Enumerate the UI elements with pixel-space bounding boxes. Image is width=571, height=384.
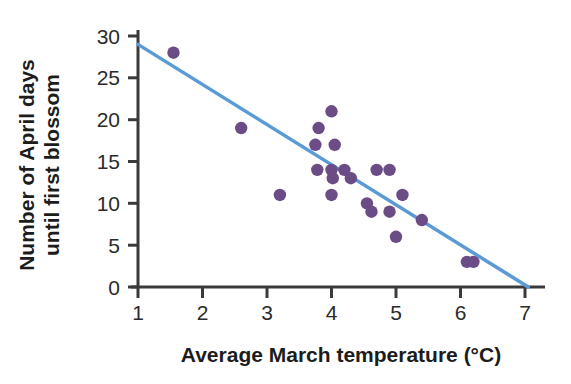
scatter-point bbox=[309, 139, 321, 151]
y-tick-label-5: 5 bbox=[108, 234, 120, 257]
y-tick-label-10: 10 bbox=[97, 192, 120, 215]
scatter-point bbox=[383, 164, 395, 176]
scatter-point bbox=[416, 214, 428, 226]
x-tick-label-1: 1 bbox=[132, 301, 144, 324]
x-axis-title: Average March temperature (°C) bbox=[181, 343, 501, 366]
scatter-chart: 30 25 20 15 10 5 0 1 2 3 4 5 6 7 Average… bbox=[0, 0, 571, 384]
y-tick-label-20: 20 bbox=[97, 108, 120, 131]
y-axis-title-line-1: Number of April days bbox=[15, 59, 38, 271]
scatter-point-group bbox=[167, 47, 479, 269]
x-tick-label-3: 3 bbox=[261, 301, 273, 324]
x-tick-label-7: 7 bbox=[519, 301, 531, 324]
x-tick-label-5: 5 bbox=[390, 301, 402, 324]
x-tick-label-2: 2 bbox=[197, 301, 209, 324]
scatter-point bbox=[383, 206, 395, 218]
scatter-point bbox=[396, 189, 408, 201]
scatter-point bbox=[390, 231, 402, 243]
x-tick-label-4: 4 bbox=[326, 301, 338, 324]
scatter-point bbox=[325, 105, 337, 117]
y-tick-label-0: 0 bbox=[108, 276, 120, 299]
scatter-point bbox=[370, 164, 382, 176]
scatter-point bbox=[327, 172, 339, 184]
scatter-point bbox=[235, 122, 247, 134]
scatter-point bbox=[274, 189, 286, 201]
scatter-point bbox=[345, 172, 357, 184]
scatter-point bbox=[467, 256, 479, 268]
scatter-point bbox=[325, 189, 337, 201]
scatter-point bbox=[329, 139, 341, 151]
scatter-point bbox=[312, 122, 324, 134]
scatter-point bbox=[311, 164, 323, 176]
scatter-point bbox=[167, 47, 179, 59]
y-tick-label-30: 30 bbox=[97, 25, 120, 48]
y-tick-label-15: 15 bbox=[97, 150, 120, 173]
y-axis-title-line-2: until first blossom bbox=[40, 74, 63, 256]
x-axis-ticks bbox=[138, 287, 525, 298]
chart-canvas: 30 25 20 15 10 5 0 1 2 3 4 5 6 7 Average… bbox=[0, 0, 571, 384]
x-tick-label-6: 6 bbox=[455, 301, 467, 324]
y-tick-label-25: 25 bbox=[97, 66, 120, 89]
scatter-point bbox=[365, 206, 377, 218]
